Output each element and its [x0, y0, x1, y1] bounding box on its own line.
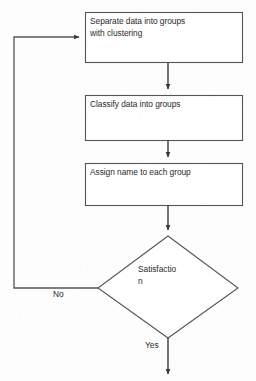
process-box-classify-data	[86, 96, 243, 141]
process-box-separate-data	[86, 13, 243, 63]
process-box-assign-name	[86, 164, 243, 206]
flowchart-canvas	[0, 0, 256, 381]
decision-diamond-satisfaction	[98, 236, 238, 338]
flowchart-diagram: Separate data into groups with clusterin…	[0, 0, 256, 381]
connector-no-feedback-loop	[14, 37, 98, 288]
